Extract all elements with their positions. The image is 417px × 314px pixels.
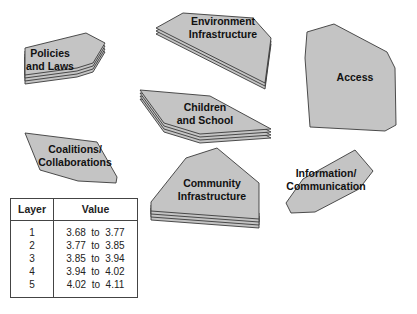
- legend-value-range: 4.02 to 4.11: [54, 278, 138, 298]
- label-policies-and-laws: Policies and Laws: [22, 47, 78, 73]
- label-community-infrastructure: Community Infrastructure: [176, 177, 248, 203]
- label-coalitions-collaborations: Coalitions/ Collaborations: [33, 143, 117, 169]
- label-line: Community: [176, 177, 248, 190]
- legend-layer-number: 4: [11, 265, 54, 278]
- label-line: Infrastructure: [176, 190, 248, 203]
- label-line: Access: [325, 71, 385, 84]
- legend-value-range: 3.85 to 3.94: [54, 252, 138, 265]
- label-line: Children: [170, 101, 240, 114]
- label-line: Policies: [22, 47, 78, 60]
- legend-row: 1 3.68 to 3.77: [11, 221, 138, 240]
- legend-value-range: 3.77 to 3.85: [54, 239, 138, 252]
- label-children-and-school: Children and School: [170, 101, 240, 127]
- label-line: Collaborations: [33, 156, 117, 169]
- legend-row: 4 3.94 to 4.02: [11, 265, 138, 278]
- legend-value-range: 3.94 to 4.02: [54, 265, 138, 278]
- legend-row: 5 4.02 to 4.11: [11, 278, 138, 298]
- legend-value-range: 3.68 to 3.77: [54, 221, 138, 240]
- legend-layer-number: 2: [11, 239, 54, 252]
- legend-row: 3 3.85 to 3.94: [11, 252, 138, 265]
- layer-value-legend: Layer Value 1 3.68 to 3.77 2 3.77 to 3.8…: [10, 198, 138, 298]
- legend-header-row: Layer Value: [11, 199, 138, 221]
- label-line: Information/: [284, 167, 368, 180]
- legend-row: 2 3.77 to 3.85: [11, 239, 138, 252]
- legend-header-layer: Layer: [11, 199, 54, 221]
- legend-layer-number: 3: [11, 252, 54, 265]
- legend-layer-number: 5: [11, 278, 54, 298]
- legend-layer-number: 1: [11, 221, 54, 240]
- label-line: Communication: [284, 180, 368, 193]
- label-access: Access: [325, 71, 385, 84]
- label-line: Coalitions/: [33, 143, 117, 156]
- label-line: Infrastructure: [183, 28, 263, 41]
- legend-header-value: Value: [54, 199, 138, 221]
- label-line: Environment: [183, 15, 263, 28]
- label-line: and Laws: [22, 60, 78, 73]
- label-line: and School: [170, 114, 240, 127]
- label-environment-infrastructure: Environment Infrastructure: [183, 15, 263, 41]
- label-information-communication: Information/ Communication: [284, 167, 368, 193]
